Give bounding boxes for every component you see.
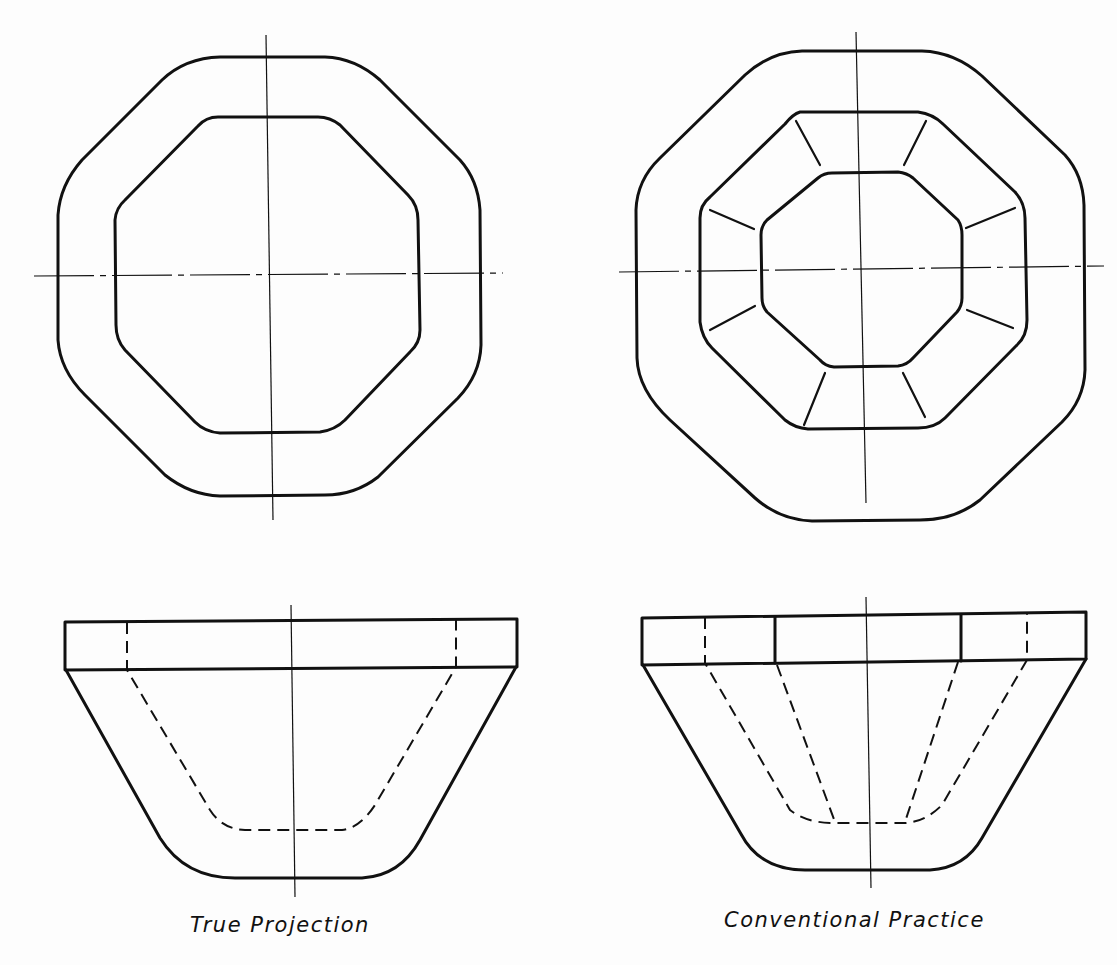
technical-drawing — [0, 0, 1117, 965]
front-centerline — [866, 597, 871, 888]
body-outline — [643, 659, 1086, 870]
drawing-canvas: True Projection Conventional Practice — [0, 0, 1117, 965]
horizontal-centerline — [34, 273, 503, 276]
hidden-rib-left — [777, 665, 835, 822]
vertical-centerline — [266, 35, 273, 520]
body-outline — [66, 667, 516, 878]
hidden-rib-right — [905, 662, 958, 822]
front-centerline — [291, 605, 295, 897]
true-projection-front-view — [65, 605, 517, 897]
outer-octagon — [636, 51, 1085, 521]
true-projection-top-view — [34, 35, 503, 520]
radial-ribs — [710, 121, 1015, 425]
caption-true-projection: True Projection — [190, 913, 370, 937]
conventional-front-view — [642, 597, 1086, 888]
flange — [642, 612, 1086, 665]
caption-conventional-practice: Conventional Practice — [724, 908, 985, 932]
conventional-top-view — [619, 32, 1104, 521]
vertical-centerline — [856, 32, 866, 503]
hidden-inner-profile — [705, 613, 1027, 823]
